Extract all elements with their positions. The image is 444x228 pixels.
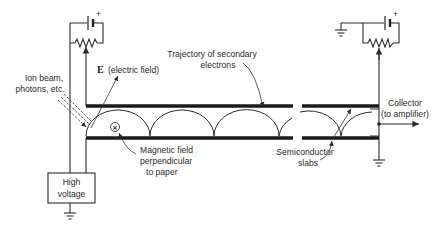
electric-field-symbol: E bbox=[97, 64, 104, 75]
ground-icon-right bbox=[335, 30, 347, 36]
collector-bracket bbox=[370, 109, 379, 136]
left-battery-plus: + bbox=[96, 9, 101, 19]
right-bias-circuit: + bbox=[341, 9, 399, 60]
magnetic-field-into-page-icon: × bbox=[111, 123, 120, 133]
trajectory-arc bbox=[279, 118, 292, 136]
right-battery-icon bbox=[385, 16, 390, 30]
left-circuit-wire bbox=[70, 23, 103, 43]
high-voltage-supply: High voltage bbox=[48, 138, 95, 203]
magnetic-label-3: to paper bbox=[146, 167, 178, 177]
electron-multiplier-diagram: + High voltage Ion beam, bbox=[0, 0, 444, 228]
collector-label-2: (to amplifier) bbox=[381, 109, 429, 119]
collector-label-1: Collector bbox=[388, 98, 422, 108]
trajectory-arc bbox=[300, 111, 341, 136]
magnetic-label-1: Magnetic field bbox=[140, 145, 193, 155]
ground-icon-left bbox=[64, 203, 76, 219]
magnetic-field-arrow bbox=[119, 133, 136, 154]
trajectory-label-1: Trajectory of secondary bbox=[167, 49, 257, 59]
right-battery-plus: + bbox=[393, 9, 398, 19]
semiconductor-label-1: Semiconductor bbox=[276, 147, 333, 157]
semiconductor-label-2: slabs bbox=[298, 158, 318, 168]
ground-icon-collector bbox=[373, 160, 385, 166]
trajectory-arc bbox=[150, 110, 214, 136]
trajectory-arc bbox=[341, 112, 372, 136]
trajectory-arrow bbox=[243, 63, 263, 107]
trajectory-arc bbox=[86, 110, 150, 136]
electric-field-arrow bbox=[91, 76, 118, 128]
trajectory-arc bbox=[214, 110, 279, 136]
high-voltage-label-1: High bbox=[63, 177, 81, 187]
ion-beam-label-1: Ion beam, bbox=[25, 73, 63, 83]
svg-text:×: × bbox=[112, 124, 118, 132]
ion-beam-label-2: photons, etc. bbox=[15, 84, 64, 94]
electric-field-label: (electric field) bbox=[108, 65, 159, 75]
left-potentiometer-icon bbox=[70, 39, 97, 47]
right-potentiometer-icon bbox=[363, 39, 393, 47]
high-voltage-label-2: voltage bbox=[58, 189, 86, 199]
trajectory-label-2: electrons bbox=[201, 60, 236, 70]
magnetic-label-2: perpendicular bbox=[140, 156, 192, 166]
electron-trajectory bbox=[86, 110, 372, 136]
left-battery-icon bbox=[88, 16, 93, 30]
diagram-canvas: + High voltage Ion beam, bbox=[0, 0, 444, 228]
